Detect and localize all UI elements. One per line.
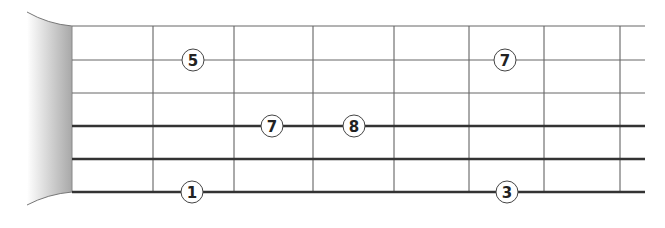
note-label: 5 <box>188 52 198 70</box>
strings <box>72 26 645 192</box>
note-marker: 5 <box>182 49 204 71</box>
fretboard-diagram: 577813 <box>0 0 665 228</box>
note-marker: 3 <box>496 181 518 203</box>
note-label: 3 <box>502 184 512 202</box>
note-marker: 1 <box>181 181 203 203</box>
note-label: 8 <box>349 118 359 136</box>
note-marker: 7 <box>261 115 283 137</box>
note-marker: 8 <box>343 115 365 137</box>
headstock <box>27 12 72 205</box>
note-label: 7 <box>267 118 277 136</box>
note-label: 7 <box>500 52 510 70</box>
note-label: 1 <box>187 184 197 202</box>
frets <box>153 26 620 192</box>
note-marker: 7 <box>494 49 516 71</box>
